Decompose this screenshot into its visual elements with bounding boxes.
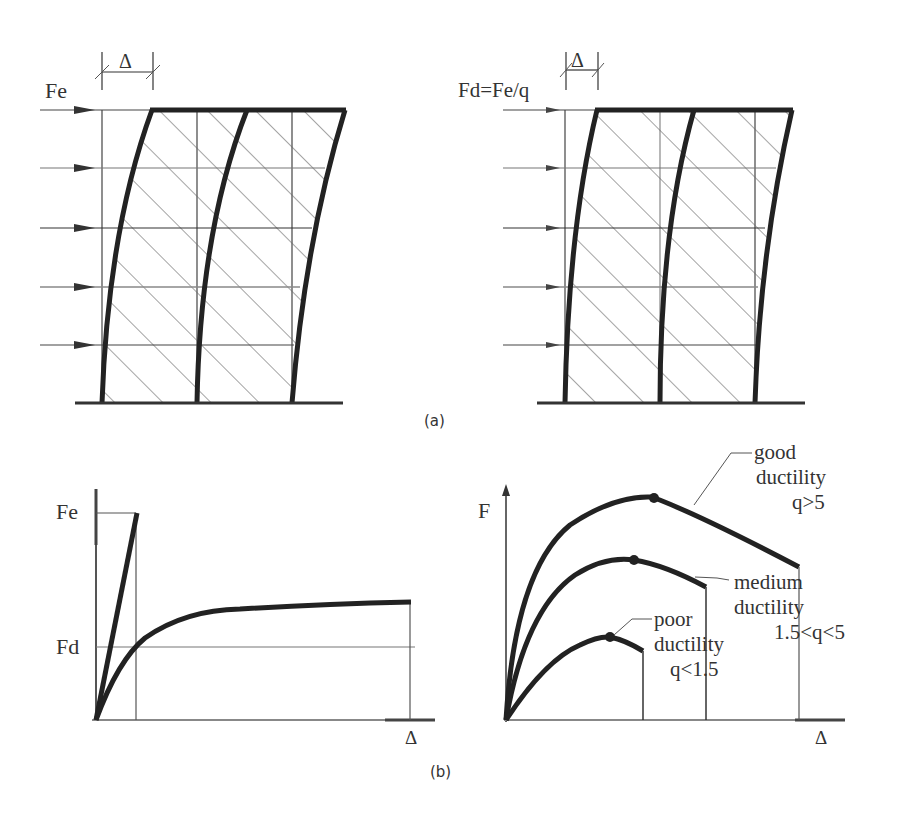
good-line3: q>5 — [754, 490, 902, 515]
drift-label-left: Δ — [119, 51, 132, 71]
fd-axis-label: Fd — [56, 636, 79, 658]
left-force-arrows — [74, 106, 95, 349]
diagram-canvas — [0, 0, 902, 815]
fe-axis-label: Fe — [56, 501, 78, 523]
f-axis-label: F — [478, 500, 490, 522]
good-line1: good — [754, 440, 902, 465]
poor-line1: poor — [652, 607, 762, 632]
poor-line2: ductility — [652, 632, 762, 657]
good-line2: ductility — [754, 465, 902, 490]
caption-a: (a) — [424, 412, 445, 430]
poor-ductility-annotation: poor ductility q<1.5 — [652, 607, 762, 682]
fd-force-label: Fd=Fe/q — [458, 80, 529, 101]
right-frame-reduced — [503, 52, 810, 410]
delta-axis-label-left: Δ — [405, 728, 417, 747]
force-displacement-chart-left — [92, 489, 435, 720]
drift-label-right: Δ — [571, 50, 584, 70]
medium-line1: medium — [730, 570, 900, 595]
delta-axis-label-right: Δ — [815, 728, 827, 747]
y-axis-arrow-icon — [502, 484, 510, 496]
good-ductility-annotation: good ductility q>5 — [754, 440, 902, 515]
left-frame-original — [40, 52, 360, 410]
fe-force-label: Fe — [45, 80, 67, 102]
caption-b: (b) — [430, 763, 451, 781]
poor-line3: q<1.5 — [652, 657, 762, 682]
